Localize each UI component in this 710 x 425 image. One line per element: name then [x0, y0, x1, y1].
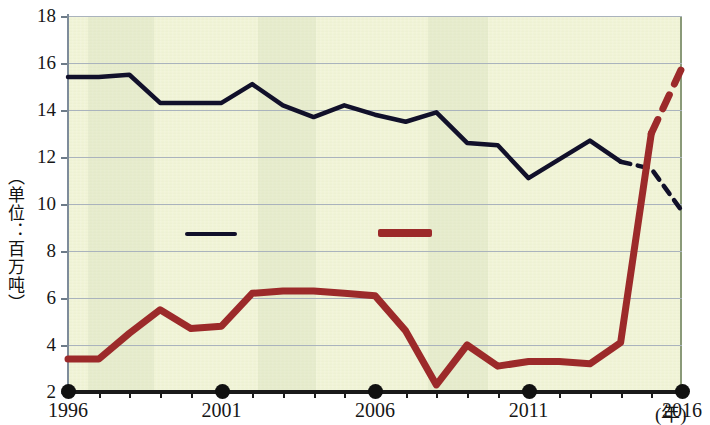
- series-layer: [0, 0, 710, 425]
- legend-swatch-dark-red-series: [378, 229, 432, 237]
- chart-container: 24681012141618 19962001200620112016 （单位：…: [0, 0, 710, 425]
- navy-series-solid: [68, 75, 621, 178]
- dark-red-series-dashed: [651, 68, 682, 134]
- dark-red-series-solid: [68, 134, 651, 385]
- legend-swatch-navy-series: [185, 232, 237, 236]
- navy-series-dashed: [621, 162, 682, 211]
